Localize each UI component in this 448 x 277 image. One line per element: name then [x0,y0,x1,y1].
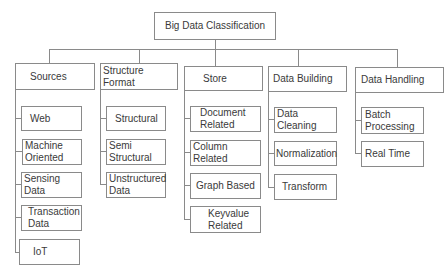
connector [215,49,216,66]
category-label: Store [203,73,227,85]
node-structural: Structural [106,106,166,131]
node-machine-oriented: Machine Oriented [22,139,82,165]
node-normalization: Normalization [274,141,337,166]
node-keyvalue-related: Keyvalue Related [190,206,261,233]
category-label: Data Handling [361,74,424,86]
node-document-related: Document Related [190,106,261,132]
connector [268,92,269,188]
root-node: Big Data Classification [154,12,276,40]
node-label: Transaction Data [28,206,81,230]
connector [49,49,50,63]
root-label: Big Data Classification [165,20,265,32]
connector [15,151,22,152]
category-data-building: Data Building [268,66,347,92]
node-transform: Transform [274,174,337,200]
node-label: Data Cleaning [277,108,336,132]
category-store: Store [184,66,263,91]
category-label: Data Building [273,73,332,85]
category-sources: Sources [15,63,95,90]
category-label: Structure Format [103,65,177,89]
node-label: Unstructured Data [109,173,166,197]
category-structure-format: Structure Format [100,63,178,90]
node-label: Web [30,113,50,125]
node-label: Sensing Data [24,173,81,197]
node-data-cleaning: Data Cleaning [274,107,337,133]
node-label: Structural [115,113,158,125]
connector [355,93,356,154]
category-data-handling: Data Handling [355,67,444,93]
node-sensing-data: Sensing Data [21,172,82,198]
category-label: Sources [30,71,67,83]
node-label: Real Time [365,148,410,160]
node-column-related: Column Related [190,140,261,166]
node-unstructured-data: Unstructured Data [106,172,166,198]
connector [100,90,101,185]
connector [184,91,185,220]
node-graph-based: Graph Based [190,173,261,199]
node-label: Graph Based [196,180,255,192]
node-label: Batch Processing [365,109,423,133]
connector [397,49,398,67]
node-label: Transform [282,181,327,193]
node-batch-processing: Batch Processing [361,107,424,134]
node-real-time: Real Time [361,141,424,167]
connector [298,49,299,66]
node-label: Column Related [193,141,260,165]
node-label: Machine Oriented [25,140,81,164]
node-label: Document Related [200,107,260,131]
node-semi-structural: Semi Structural [106,139,166,165]
connector [139,49,140,63]
node-transaction-data: Transaction Data [21,205,82,231]
node-label: Semi Structural [109,140,165,164]
node-iot: IoT [19,239,80,265]
node-label: Normalization [276,148,337,160]
node-web: Web [21,106,82,131]
connector [15,90,16,253]
node-label: Keyvalue Related [208,208,260,232]
node-label: IoT [33,246,47,258]
connector [49,49,398,50]
